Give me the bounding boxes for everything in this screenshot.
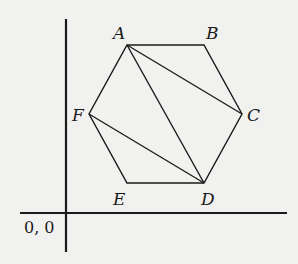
vertex-label-e: E — [112, 189, 126, 209]
vertex-label-c: C — [247, 105, 260, 125]
vertex-label-b: B — [205, 23, 219, 43]
hexagon-diagram: A B C D E F 0, 0 — [0, 0, 298, 264]
vertex-label-d: D — [200, 189, 215, 209]
diagonal-fd — [89, 114, 204, 183]
diagonal-ac — [127, 45, 242, 114]
vertex-label-a: A — [111, 23, 125, 43]
vertex-label-f: F — [71, 105, 85, 125]
diagonal-ad — [127, 45, 204, 183]
origin-label: 0, 0 — [24, 218, 55, 237]
